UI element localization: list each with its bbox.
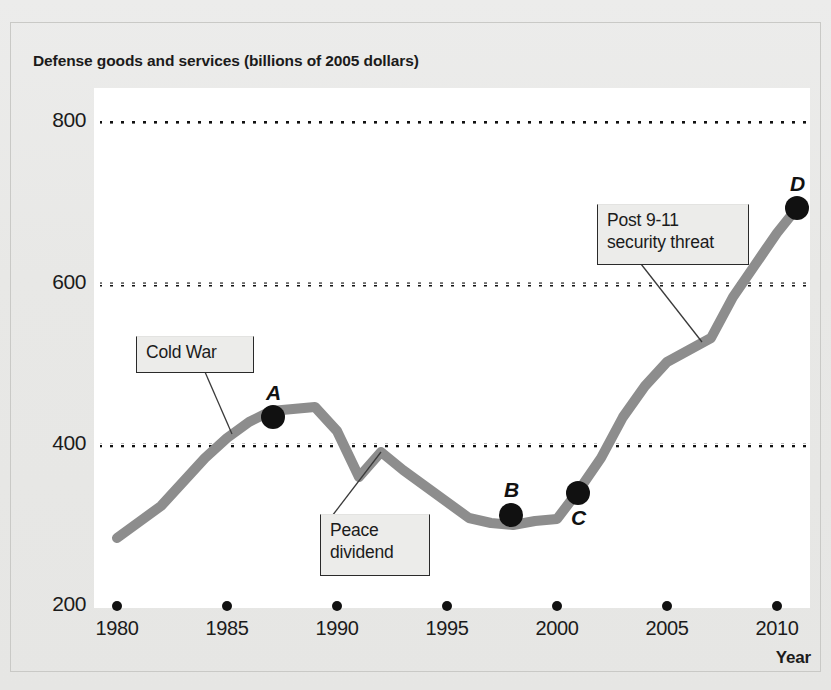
gridlines [100,121,806,448]
annotation-post-911-line2: security threat [607,232,714,252]
data-point-d [785,196,809,220]
data-point-c [566,481,590,505]
baseline-tick-dots [112,601,782,611]
annotation-post-911: Post 9-11 security threat [597,204,749,265]
annotation-post-911-line1: Post 9-11 [607,210,679,230]
annotation-peace-dividend: Peace dividend [320,514,430,576]
point-label-a: A [266,381,281,405]
annotation-peace-dividend-line1: Peace [330,520,379,540]
chart-figure: Defense goods and services (billions of … [0,0,831,690]
data-point-a [261,405,285,429]
plot-svg [0,0,831,690]
point-label-b: B [504,478,519,502]
annotation-cold-war: Cold War [136,336,254,373]
annotation-peace-dividend-line2: dividend [330,542,394,562]
point-label-d: D [790,172,805,196]
annotation-cold-war-line1: Cold War [146,342,217,362]
data-point-b [499,503,523,527]
point-label-c: C [571,506,586,530]
